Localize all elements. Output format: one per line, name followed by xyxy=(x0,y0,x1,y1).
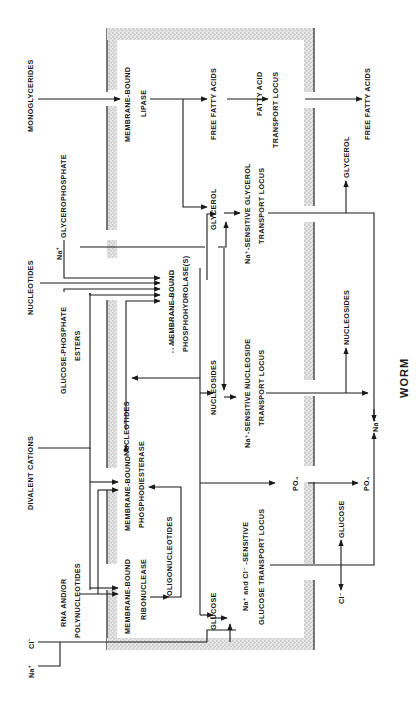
label-fatty-acid-locus-2: TRANSPORT LOCUS xyxy=(271,72,280,148)
label-phosphodiesterase-2: PHOSPHODIESTERASE xyxy=(137,441,146,528)
label-cl-ion-outside: Cl− xyxy=(26,638,36,649)
labels: MONOGLYCERIDES GLYCEROPHOSPHATE NUCLEOTI… xyxy=(26,59,410,678)
label-nucleoside-locus-1: Na⁺-SENSITIVE NUCLEOSIDE xyxy=(243,339,252,448)
label-rna: RNA AND/OR xyxy=(59,578,68,627)
label-nucleotides-pde: NUCLEOTIDES xyxy=(122,401,131,456)
label-polynucleotides: POLYNUCLEOTIDES xyxy=(73,563,82,638)
label-ribonuclease-1: MEMBRANE-BOUND xyxy=(123,559,132,634)
label-phosphohydrolase-1: MEMBRANE-BOUND xyxy=(167,270,176,345)
label-po4-inside: PO₄ xyxy=(362,476,371,491)
label-glucose-phosphate: GLUCOSE-PHOSPHATE xyxy=(59,307,68,394)
label-glycerophosphate: GLYCEROPHOSPHATE xyxy=(59,154,68,238)
label-glucose: GLUCOSE xyxy=(209,592,218,630)
label-free-fatty-acids-inside: FREE FATTY ACIDS xyxy=(363,68,372,140)
label-nucleotides-outside: NUCLEOTIDES xyxy=(26,260,35,315)
label-glucose-locus-2: GLUCOSE TRANSPORT LOCUS xyxy=(257,509,266,625)
membrane-transport-diagram: MONOGLYCERIDES GLYCEROPHOSPHATE NUCLEOTI… xyxy=(0,0,416,711)
label-glucose-inside: GLUCOSE xyxy=(337,500,346,538)
label-ribonuclease-2: RIBONUCLEASE xyxy=(139,559,148,620)
label-glycerol-locus-1: Na⁺-SENSITIVE GLYCEROL xyxy=(243,163,252,264)
label-monoglycerides: MONOGLYCERIDES xyxy=(26,59,35,132)
label-cl-ion-inside: Cl⁻ xyxy=(337,592,346,604)
label-po4-outside: PO₄ xyxy=(291,476,300,491)
pathway-arrows xyxy=(38,99,374,666)
label-phosphodiesterase-1: MEMBRANE-BOUND xyxy=(123,456,132,531)
label-glycerol: GLYCEROL xyxy=(209,188,218,230)
label-phosphohydrolase-2: PHOSPHOHYDROLASE(S) xyxy=(181,255,190,352)
label-oligonucleotides: OLIGONUCLEOTIDES xyxy=(165,517,174,596)
label-esters: ESTERS xyxy=(73,330,82,361)
label-glycerol-locus-2: TRANSPORT LOCUS xyxy=(257,168,266,244)
label-glycerol-inside: GLYCEROL xyxy=(342,136,351,178)
label-divalent-cations: DIVALENT CATIONS xyxy=(26,436,35,510)
label-fatty-acid-locus-1: FATTY ACID xyxy=(255,72,264,116)
label-lipase-2: LIPASE xyxy=(139,90,148,117)
label-glucose-locus-1: Na⁺ and Cl⁻ -SENSITIVE xyxy=(241,522,250,611)
label-lipase-1: MEMBRANE-BOUND xyxy=(123,67,132,142)
label-free-fatty-acids: FREE FATTY ACIDS xyxy=(209,68,218,140)
label-na-ion-inside: Na⁺ xyxy=(371,418,380,432)
label-nucleosides-inside: NUCLEOSIDES xyxy=(342,290,351,345)
label-na-ion-gp: Na+ xyxy=(54,247,64,260)
label-na-ion-outside: Na+ xyxy=(26,665,36,678)
label-nucleoside-locus-2: TRANSPORT LOCUS xyxy=(257,350,266,426)
label-worm: WORM xyxy=(398,358,410,398)
label-nucleosides: NUCLEOSIDES xyxy=(209,360,218,415)
